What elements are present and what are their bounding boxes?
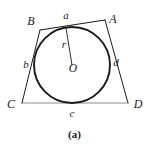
center-label-O: O [69, 63, 77, 75]
side-a-segment-BA [40, 20, 105, 30]
vertex-label-C: C [7, 98, 15, 110]
side-label-d: d [113, 57, 119, 68]
panel-caption: (a) [68, 128, 81, 140]
radius-segment [66, 28, 72, 65]
side-label-a: a [63, 10, 69, 21]
vertex-label-D: D [134, 98, 143, 110]
vertex-label-A: A [109, 13, 116, 25]
vertex-label-B: B [27, 15, 34, 27]
geometry-figure-panel: A B C D a b c d r O (a) [0, 0, 149, 147]
radius-label-r: r [62, 39, 66, 50]
side-label-b: b [23, 59, 29, 70]
side-label-c: c [70, 108, 75, 119]
